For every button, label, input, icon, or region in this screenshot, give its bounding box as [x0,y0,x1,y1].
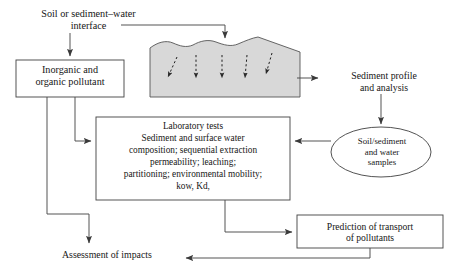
edge-prediction-to-assessment [186,248,370,258]
diagram-canvas: Soil or sediment–water interface Inorgan… [0,0,452,272]
edge-inorganic-to-lab [75,97,91,141]
samples-label: Soil/sediment and water samples [330,136,434,168]
laboratory-tests-label: Laboratory tests Sediment and surface wa… [97,120,289,192]
interface-label: Soil or sediment–water interface [6,8,171,32]
prediction-label: Prediction of transport of pollutants [300,221,440,244]
sediment-profile-label: Sediment profile and analysis [323,70,445,93]
edge-inorganic-to-assessment [47,97,89,243]
inorganic-pollutant-label: Inorganic and organic pollutant [16,64,124,88]
sediment-cross-section-graphic [150,37,300,97]
assessment-label: Assessment of impacts [62,249,182,261]
edge-lab-to-prediction [225,200,292,232]
